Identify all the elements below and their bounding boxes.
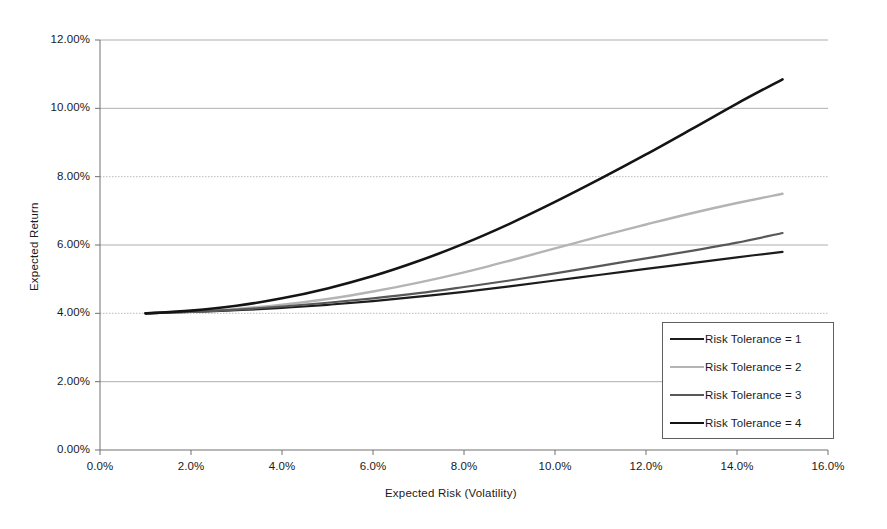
x-tick-label: 0.0%	[70, 460, 130, 472]
legend-item-3: Risk Tolerance = 3	[663, 381, 833, 409]
chart-container: 0.00%2.00%4.00%6.00%8.00%10.00%12.00% 0.…	[0, 0, 887, 529]
x-tick-label: 4.0%	[252, 460, 312, 472]
y-axis-title: Expected Return	[28, 202, 40, 291]
x-tick-label: 14.0%	[707, 460, 767, 472]
legend-line-swatch	[670, 394, 704, 396]
x-tick-label: 10.0%	[525, 460, 585, 472]
y-tick-label: 8.00%	[28, 170, 90, 182]
y-tick-label: 0.00%	[28, 443, 90, 455]
series-line-4	[146, 79, 783, 313]
legend: Risk Tolerance = 1Risk Tolerance = 2Risk…	[662, 322, 834, 439]
legend-item-2: Risk Tolerance = 2	[663, 353, 833, 381]
x-axis-title: Expected Risk (Volatility)	[385, 487, 517, 499]
series-line-2	[146, 194, 783, 314]
legend-item-label: Risk Tolerance = 1	[705, 333, 802, 345]
legend-line-swatch	[670, 338, 704, 340]
y-tick-label: 2.00%	[28, 375, 90, 387]
data-curves	[146, 79, 783, 313]
legend-line-swatch	[670, 422, 704, 424]
x-tick-label: 16.0%	[798, 460, 858, 472]
legend-item-4: Risk Tolerance = 4	[663, 409, 833, 437]
y-tick-label: 10.00%	[28, 101, 90, 113]
legend-item-1: Risk Tolerance = 1	[663, 325, 833, 353]
y-tick-label: 12.00%	[28, 33, 90, 45]
legend-item-label: Risk Tolerance = 2	[705, 361, 802, 373]
plot-area	[0, 0, 887, 529]
legend-item-label: Risk Tolerance = 3	[705, 389, 802, 401]
legend-item-label: Risk Tolerance = 4	[705, 417, 802, 429]
x-tick-label: 6.0%	[343, 460, 403, 472]
legend-line-swatch	[670, 366, 704, 368]
x-tick-label: 12.0%	[616, 460, 676, 472]
x-tick-label: 2.0%	[161, 460, 221, 472]
y-tick-label: 4.00%	[28, 306, 90, 318]
x-tick-label: 8.0%	[434, 460, 494, 472]
